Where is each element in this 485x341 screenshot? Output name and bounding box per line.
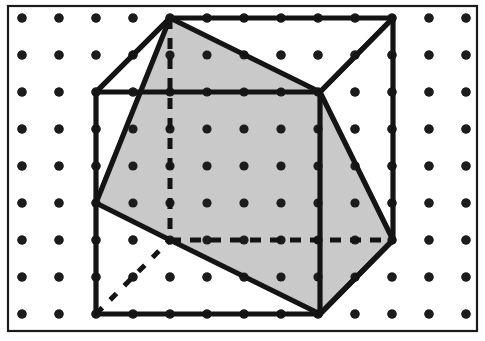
grid-dot — [461, 13, 470, 22]
grid-dot — [461, 198, 470, 207]
geometry-diagram — [0, 0, 485, 341]
grid-dot — [17, 309, 26, 318]
grid-dot — [202, 124, 211, 133]
grid-dot — [424, 235, 433, 244]
grid-dot — [17, 124, 26, 133]
grid-dot — [202, 50, 211, 59]
grid-dot — [54, 161, 63, 170]
grid-dot — [424, 198, 433, 207]
grid-dot — [239, 124, 248, 133]
grid-dot — [424, 124, 433, 133]
grid-dot — [350, 87, 359, 96]
corner-chord-2 — [320, 18, 393, 92]
grid-dot — [17, 87, 26, 96]
grid-dot — [54, 272, 63, 281]
grid-dot — [461, 272, 470, 281]
grid-dot — [202, 272, 211, 281]
grid-dot — [424, 50, 433, 59]
grid-dot — [17, 161, 26, 170]
grid-dot — [17, 272, 26, 281]
grid-dot — [54, 198, 63, 207]
grid-dot — [54, 50, 63, 59]
grid-dot — [424, 161, 433, 170]
grid-dot — [350, 198, 359, 207]
grid-dot — [350, 124, 359, 133]
grid-dot — [276, 161, 285, 170]
grid-dot — [276, 50, 285, 59]
grid-dot — [54, 235, 63, 244]
grid-dot — [276, 272, 285, 281]
grid-dot — [461, 161, 470, 170]
grid-dot — [424, 272, 433, 281]
grid-dot — [91, 50, 100, 59]
grid-dot — [276, 198, 285, 207]
grid-dot — [424, 13, 433, 22]
grid-dot — [54, 87, 63, 96]
grid-dot — [239, 161, 248, 170]
grid-dot — [54, 124, 63, 133]
grid-dot — [128, 198, 137, 207]
grid-dot — [461, 124, 470, 133]
grid-dot — [461, 309, 470, 318]
grid-dot — [54, 13, 63, 22]
grid-dot — [202, 198, 211, 207]
grid-dot — [128, 235, 137, 244]
figure-canvas — [0, 0, 485, 341]
grid-dot — [165, 272, 174, 281]
grid-dot — [276, 124, 285, 133]
grid-dot — [91, 13, 100, 22]
grid-dot — [387, 272, 396, 281]
grid-dot — [313, 50, 322, 59]
dot-grid-overlay — [17, 13, 470, 318]
grid-dot — [424, 309, 433, 318]
grid-dot — [202, 161, 211, 170]
grid-dot — [461, 87, 470, 96]
grid-dot — [387, 309, 396, 318]
grid-dot — [461, 235, 470, 244]
grid-dot — [17, 50, 26, 59]
grid-dot — [17, 13, 26, 22]
grid-dot — [17, 235, 26, 244]
grid-dot — [128, 124, 137, 133]
grid-dot — [239, 198, 248, 207]
grid-dot — [54, 309, 63, 318]
grid-dot — [128, 161, 137, 170]
grid-dot — [424, 87, 433, 96]
grid-dot — [128, 13, 137, 22]
grid-dot — [350, 309, 359, 318]
grid-dot — [17, 198, 26, 207]
grid-dot — [461, 50, 470, 59]
